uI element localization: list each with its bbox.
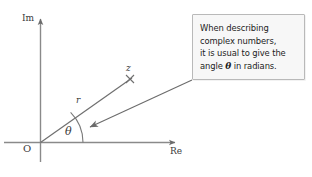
callout-line-1: When describing [200, 23, 269, 33]
real-axis-label: Re [170, 147, 182, 156]
origin-label: O [23, 144, 31, 154]
callout-line-3: it is usual to give the [200, 48, 286, 58]
callout-box: When describing complex numbers, it is u… [192, 14, 305, 80]
callout-line-4-prefix: angle [200, 61, 225, 71]
angle-label-theta: θ [65, 126, 72, 137]
callout-leader-line [90, 80, 192, 127]
imaginary-axis-label: Im [22, 14, 34, 23]
argand-diagram-figure: Im Re O r z θ When describing complex nu… [0, 0, 312, 177]
callout-text: When describing complex numbers, it is u… [200, 22, 300, 72]
callout-line-4-suffix: in radians. [231, 61, 276, 71]
point-marker-z [126, 75, 134, 83]
modulus-label: r [76, 96, 80, 105]
point-label-z: z [126, 64, 131, 73]
modulus-vector-line [41, 78, 133, 143]
callout-line-2: complex numbers, [200, 36, 276, 46]
